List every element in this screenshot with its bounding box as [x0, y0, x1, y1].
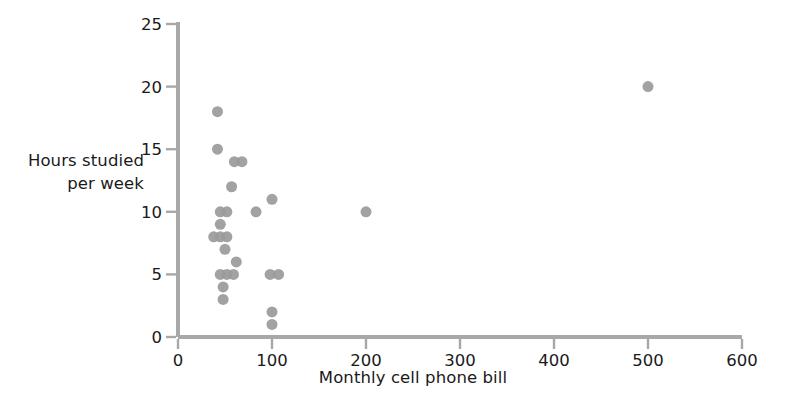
data-point [267, 319, 278, 330]
y-tick-label: 10 [118, 202, 162, 221]
data-point [220, 244, 231, 255]
data-point [212, 144, 223, 155]
data-point [267, 194, 278, 205]
y-tick-label: 5 [118, 265, 162, 284]
data-points [208, 81, 653, 330]
x-tick-label: 400 [538, 351, 570, 370]
x-tick-label: 600 [726, 351, 758, 370]
data-point [226, 181, 237, 192]
y-tick-label: 25 [118, 15, 162, 34]
data-point [643, 81, 654, 92]
x-tick-label: 200 [350, 351, 382, 370]
x-tick-label: 500 [632, 351, 664, 370]
data-point [361, 206, 372, 217]
x-tick-label: 0 [173, 351, 184, 370]
data-point [236, 156, 247, 167]
x-tick-label: 100 [256, 351, 288, 370]
data-point [251, 206, 262, 217]
data-point [212, 106, 223, 117]
data-point [215, 219, 226, 230]
data-point [221, 206, 232, 217]
tick-marks [166, 24, 742, 349]
data-point [273, 269, 284, 280]
scatter-chart-figure: Hours studied per week Monthly cell phon… [0, 0, 787, 403]
data-point [218, 281, 229, 292]
data-point [267, 306, 278, 317]
y-tick-label: 0 [118, 328, 162, 347]
data-point [221, 231, 232, 242]
y-tick-label: 20 [118, 77, 162, 96]
data-point [218, 294, 229, 305]
axis-lines [178, 22, 742, 337]
data-point [228, 269, 239, 280]
x-tick-label: 300 [444, 351, 476, 370]
data-point [231, 256, 242, 267]
y-tick-label: 15 [118, 140, 162, 159]
